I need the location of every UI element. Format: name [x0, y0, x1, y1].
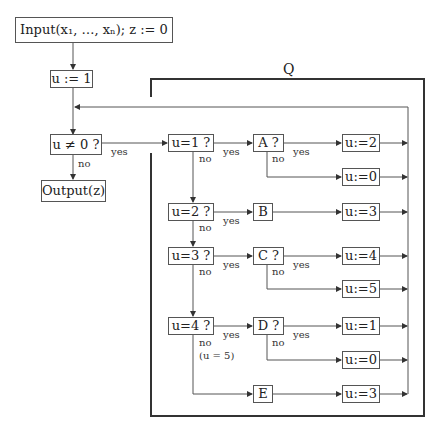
- test-u-nonzero-node: u ≠ 0 ?: [50, 134, 102, 155]
- init-u-node: u := 1: [50, 70, 93, 88]
- assign-u2-node: u:=2: [342, 134, 380, 152]
- edge-label-no: no: [272, 337, 284, 348]
- edge-label-yes: yes: [293, 146, 310, 157]
- input-node: Input(x₁, …, xₙ); z := 0: [15, 17, 173, 43]
- edge-label-yes: yes: [223, 259, 240, 270]
- edge-label-yes: yes: [293, 259, 310, 270]
- assign-u4-node: u:=4: [342, 247, 380, 265]
- edge-label-yes: yes: [111, 146, 128, 157]
- output-node: Output(z): [41, 180, 106, 202]
- assign-u3-node: u:=3: [342, 203, 380, 221]
- edge-label-no: no: [78, 158, 90, 169]
- edge-label-no: no: [199, 337, 211, 348]
- op-e-node: E: [253, 385, 273, 403]
- assign-u1-node: u:=1: [342, 317, 380, 335]
- test-c-node: C ?: [253, 247, 284, 265]
- edge-label-u5-note: (u = 5): [199, 350, 234, 361]
- assign-u3-node: u:=3: [342, 385, 380, 403]
- edge-label-no: no: [272, 266, 284, 277]
- assign-u5-node: u:=5: [342, 280, 380, 298]
- test-u3-node: u=3 ?: [168, 247, 214, 265]
- edge-label-no: no: [199, 266, 211, 277]
- edge-label-no: no: [199, 222, 211, 233]
- edge-label-yes: yes: [223, 215, 240, 226]
- edge-label-yes: yes: [223, 329, 240, 340]
- test-d-node: D ?: [253, 317, 284, 335]
- region-q-label: Q: [283, 61, 294, 77]
- edge-label-yes: yes: [223, 146, 240, 157]
- op-b-node: B: [253, 203, 273, 221]
- edge-label-no: no: [199, 153, 211, 164]
- test-u4-node: u=4 ?: [168, 317, 214, 335]
- assign-u0-node: u:=0: [342, 168, 380, 186]
- test-u2-node: u=2 ?: [168, 203, 214, 221]
- edge-label-yes: yes: [293, 329, 310, 340]
- assign-u0-node: u:=0: [342, 351, 380, 369]
- edge-label-no: no: [272, 153, 284, 164]
- test-u1-node: u=1 ?: [168, 134, 214, 152]
- test-a-node: A ?: [253, 134, 284, 152]
